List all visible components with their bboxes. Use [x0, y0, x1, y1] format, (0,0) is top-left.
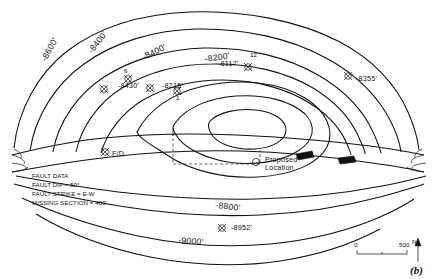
contour-lines-upper — [14, 12, 419, 178]
scale-bar-label-0: 0 — [354, 241, 358, 248]
fault-trace-lower — [12, 151, 424, 172]
well-label-fd: F/D — [112, 149, 124, 158]
fault-data-missing-section: MISSING SECTION = 400' — [32, 199, 107, 206]
scale-bar-label-500: 500 — [399, 241, 410, 248]
structure-contour-map-figure: -8600' -8400' -8400' -8200' -8800' -9000… — [0, 0, 439, 279]
well-label-1: 1 — [176, 94, 180, 101]
well-label-8117: -8117' — [218, 59, 239, 68]
well-symbol-8355[interactable] — [344, 72, 352, 80]
well-label-8215: -8215' — [162, 81, 183, 90]
well-label-8355: -8355' — [356, 74, 377, 83]
contour-crest-core — [208, 109, 286, 149]
north-arrow: N — [412, 238, 421, 262]
proposed-label-line2: Location — [265, 163, 294, 172]
fault-data-title: FAULT DATA — [32, 172, 69, 179]
well-symbol-8215[interactable] — [146, 84, 154, 92]
contour-label-8400-left: -8400' — [86, 29, 110, 55]
fault-end-west — [12, 149, 28, 172]
scale-bar: 0 500 — [354, 241, 410, 254]
contour-label-8400-mid: -8400' — [140, 42, 167, 62]
well-symbol-fd[interactable] — [101, 148, 109, 156]
scale-bar-line — [357, 250, 407, 254]
contour-label-8600-left: -8600' — [39, 36, 60, 63]
contour-8400-outer — [30, 29, 401, 152]
well-label-6: 6 — [124, 67, 128, 74]
contour-label-8800: -8800' — [215, 200, 241, 213]
fault-data-strike: FAULT STRIKE = E-W — [32, 190, 95, 197]
proposed-location-label: Proposed Location — [265, 155, 297, 172]
fault-data-dip: FAULT DIP = 50° — [32, 181, 80, 188]
fault-band — [12, 134, 426, 172]
well-label-12: 12 — [250, 51, 257, 58]
well-symbol-8430[interactable] — [100, 85, 108, 93]
well-labels: -8430' 6 -8215' 1 -8117' 12 -8355' F/D -… — [112, 51, 377, 232]
proposed-location-symbol[interactable] — [252, 158, 259, 165]
contour-9200-south — [36, 214, 380, 265]
north-arrow-label: N — [412, 238, 416, 245]
contour-8200-inner — [101, 80, 351, 155]
fault-marker-right — [338, 156, 356, 164]
well-label-8430: -8430' — [118, 81, 139, 90]
fault-marker-left — [296, 151, 314, 160]
contour-label-9000: -9000' — [178, 235, 204, 247]
map-canvas: -8600' -8400' -8400' -8200' -8800' -9000… — [0, 0, 439, 279]
well-symbol-8952[interactable] — [218, 224, 226, 232]
panel-label: (b) — [410, 264, 423, 277]
contour-labels: -8600' -8400' -8400' -8200' -8800' -9000… — [39, 29, 241, 247]
well-label-8952: -8952' — [231, 223, 252, 232]
